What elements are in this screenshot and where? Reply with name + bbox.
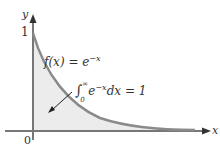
integral-tail: dx = 1 xyxy=(107,84,147,98)
chart-plot xyxy=(0,0,220,153)
y-tick-1: 1 xyxy=(21,25,29,39)
integral-upper-limit: ∞ xyxy=(82,80,88,88)
integral-annotation: ∫∞0e−xdx = 1 xyxy=(75,82,146,98)
y-axis-arrow-icon xyxy=(30,14,37,23)
y-axis-label: y xyxy=(22,8,28,21)
integral-lower-limit: 0 xyxy=(80,96,84,104)
integral-exponent: −x xyxy=(95,83,106,92)
function-label: f(x) = e−x xyxy=(44,54,101,69)
origin-label: 0 xyxy=(24,134,31,147)
x-axis-arrow-icon xyxy=(202,128,211,135)
x-axis-label: x xyxy=(212,124,218,137)
function-label-base: f(x) = e xyxy=(44,55,89,69)
function-label-exp: −x xyxy=(89,54,100,63)
